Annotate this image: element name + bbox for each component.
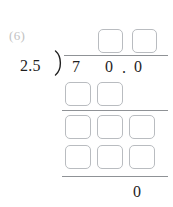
divisor-value: 2.5 bbox=[20, 58, 41, 74]
work-row-2-box-3[interactable] bbox=[129, 115, 155, 139]
work-row-1-box-1[interactable] bbox=[65, 82, 91, 106]
dividend-digit-2: 0 bbox=[105, 59, 113, 75]
final-remainder-value: 0 bbox=[133, 184, 141, 200]
work-row-3-box-1[interactable] bbox=[65, 145, 91, 169]
vinculum-rule bbox=[64, 55, 168, 56]
final-subtraction-rule bbox=[62, 176, 168, 177]
work-row-1-box-2[interactable] bbox=[97, 82, 123, 106]
problem-number-label: (6) bbox=[9, 29, 25, 42]
work-row-3-box-3[interactable] bbox=[129, 145, 155, 169]
work-row-2-box-1[interactable] bbox=[65, 115, 91, 139]
dividend-digit-3: 0 bbox=[134, 59, 142, 75]
work-row-3-box-2[interactable] bbox=[97, 145, 123, 169]
dividend-digit-1: 7 bbox=[72, 59, 80, 75]
first-subtraction-rule bbox=[62, 110, 168, 111]
dividend-decimal-point: . bbox=[122, 60, 126, 76]
long-division-worksheet: (6) 2.5 7 0 . 0 0 bbox=[0, 0, 173, 207]
work-row-2-box-2[interactable] bbox=[97, 115, 123, 139]
quotient-box-1[interactable] bbox=[98, 29, 123, 53]
division-bracket-icon bbox=[54, 50, 66, 76]
quotient-box-2[interactable] bbox=[132, 29, 157, 53]
